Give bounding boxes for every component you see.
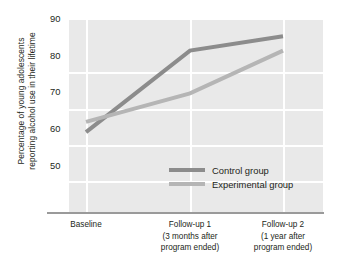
legend-item-experimental: Experimental group <box>169 177 319 191</box>
y-tick-label-80: 80 <box>50 50 67 61</box>
legend-swatch-control-icon <box>169 168 205 172</box>
legend-label-control: Control group <box>212 165 269 176</box>
x-tick-followup-1-line-3: program ended) <box>140 242 240 254</box>
x-tick-followup-1-line-1: Follow-up 1 <box>140 219 240 231</box>
legend-swatch-experimental-icon <box>169 182 205 186</box>
y-tick-label-70: 70 <box>50 86 67 97</box>
y-axis-title-line-2: reporting alcohol use in their lifetime <box>27 0 38 206</box>
series-line-control <box>86 36 283 132</box>
x-tick-label-followup-2: Follow-up 2 (1 year after program ended) <box>233 219 333 254</box>
y-tick-label-50: 50 <box>50 160 67 171</box>
x-tick-label-followup-1: Follow-up 1 (3 months after program ende… <box>140 219 240 254</box>
x-tick-followup-1-line-2: (3 months after <box>140 231 240 243</box>
x-axis-line <box>47 212 324 214</box>
y-axis-title: Percentage of young adolescents reportin… <box>16 0 46 206</box>
line-chart-figure: Percentage of young adolescents reportin… <box>0 0 338 278</box>
y-axis-title-line-1: Percentage of young adolescents <box>16 0 27 206</box>
x-tick-followup-2-line-1: Follow-up 2 <box>233 219 333 231</box>
legend-label-experimental: Experimental group <box>212 179 293 190</box>
x-tick-baseline-line-1: Baseline <box>36 219 136 231</box>
x-tick-followup-2-line-3: program ended) <box>233 242 333 254</box>
chart-legend: Control group Experimental group <box>169 163 319 191</box>
x-tick-label-baseline: Baseline <box>36 219 136 231</box>
y-tick-label-60: 60 <box>50 123 67 134</box>
x-tick-followup-2-line-2: (1 year after <box>233 231 333 243</box>
legend-item-control: Control group <box>169 163 319 177</box>
y-tick-label-90: 90 <box>50 13 67 24</box>
